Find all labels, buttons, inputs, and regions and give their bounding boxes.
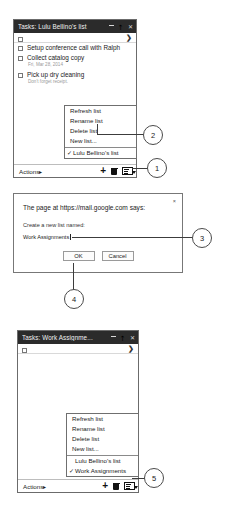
callout-4: 4	[64, 289, 84, 309]
task-title: Collect catalog copy	[27, 54, 84, 62]
task-row[interactable]: Collect catalog copy	[14, 52, 136, 62]
dialog-close-icon[interactable]: ×	[173, 198, 176, 204]
popout-icon[interactable]: ↗	[118, 333, 128, 343]
js-prompt-dialog: × The page at https://mail.google.com sa…	[13, 193, 183, 273]
callout-3: 3	[192, 228, 212, 248]
task-note: Don't forget receipt.	[14, 79, 136, 85]
popout-icon[interactable]: ↗	[116, 22, 126, 32]
tasks-body: ❯ Setup conference call with Ralph Colle…	[14, 33, 136, 165]
callout-number: 5	[152, 474, 156, 483]
panel-title: Tasks: Work Assignme...	[22, 334, 108, 341]
task-row[interactable]: Pick up dry cleaning	[14, 68, 136, 79]
callout-leader	[97, 134, 144, 135]
actions-caret-icon: ▸	[43, 483, 46, 490]
task-row[interactable]: ❯	[14, 33, 136, 42]
tasks-footer: Actions▸ +	[18, 479, 138, 492]
callout-1: 1	[147, 158, 167, 178]
task-checkbox[interactable]	[18, 73, 23, 78]
task-row[interactable]: Setup conference call with Ralph	[14, 43, 136, 53]
menu-item-list-lulu-bellinos-list[interactable]: ✓ Lulu Bellino's list	[65, 148, 136, 158]
menu-item-new-list[interactable]: New list...	[67, 444, 138, 454]
menu-item-rename-list[interactable]: Rename list	[65, 116, 136, 126]
minimize-icon[interactable]	[109, 25, 114, 26]
dialog-header: The page at https://mail.google.com says…	[14, 194, 182, 212]
delete-task-icon[interactable]	[113, 483, 119, 490]
menu-item-list-work-assignments[interactable]: ✓ Work Assignments	[67, 466, 138, 476]
tasks-body: ❯ Refresh list Rename list Delete list N…	[18, 344, 138, 480]
actions-label: Actions	[23, 483, 43, 490]
menu-item-delete-list[interactable]: Delete list	[67, 434, 138, 444]
task-checkbox[interactable]	[18, 46, 23, 51]
callout-2: 2	[143, 125, 163, 145]
menu-item-rename-list[interactable]: Rename list	[67, 424, 138, 434]
task-detail-arrow[interactable]: ❯	[126, 34, 132, 42]
close-icon[interactable]: ✕	[128, 24, 133, 30]
text-caret	[70, 234, 71, 240]
delete-task-icon[interactable]	[111, 168, 117, 175]
task-detail-arrow[interactable]: ❯	[128, 345, 134, 353]
task-checkbox[interactable]	[18, 56, 23, 61]
add-task-icon[interactable]: +	[100, 167, 106, 175]
footer-icons: +	[100, 167, 133, 175]
callout-number: 3	[200, 234, 204, 243]
minimize-icon[interactable]	[111, 336, 116, 337]
task-title: Pick up dry cleaning	[27, 71, 84, 79]
callout-number: 1	[155, 164, 159, 173]
list-context-menu: Refresh list Rename list Delete list New…	[66, 413, 139, 477]
callout-leader	[73, 263, 74, 291]
menu-item-new-list[interactable]: New list...	[65, 136, 136, 146]
list-context-menu: Refresh list Rename list Delete list New…	[64, 105, 137, 159]
callout-number: 2	[151, 131, 155, 140]
dialog-prompt-label: Create a new list named:	[14, 212, 182, 229]
cancel-button[interactable]: Cancel	[102, 251, 134, 261]
task-title: Setup conference call with Ralph	[27, 44, 120, 52]
menu-list-label: Lulu Bellino's list	[75, 457, 121, 465]
callout-number: 4	[72, 295, 76, 304]
tasks-footer: Actions▸ +	[14, 164, 136, 177]
menu-list-label: Lulu Bellino's list	[73, 149, 119, 157]
footer-icons: +	[102, 482, 135, 490]
titlebar-buttons: ↗ ✕	[108, 334, 135, 342]
menu-item-refresh-list[interactable]: Refresh list	[67, 414, 138, 424]
task-row[interactable]: ❯	[18, 344, 138, 353]
callout-5: 5	[144, 468, 164, 488]
task-checkbox[interactable]	[18, 37, 23, 42]
actions-caret-icon: ▸	[39, 168, 42, 175]
list-actions-icon[interactable]	[124, 482, 135, 490]
ok-button[interactable]: OK	[63, 251, 95, 261]
chevron-down-icon	[132, 171, 136, 174]
menu-item-list-lulu-bellinos-list[interactable]: Lulu Bellino's list	[67, 456, 138, 466]
actions-button[interactable]: Actions▸	[23, 483, 102, 490]
dialog-buttons: OK Cancel	[14, 251, 182, 261]
close-icon[interactable]: ✕	[130, 335, 135, 341]
tasks-panel-lulu: Tasks: Lulu Bellino's list ↗ ✕ ❯ Setup c…	[13, 19, 137, 178]
input-value: Work Assignments	[23, 234, 69, 240]
actions-label: Actions	[19, 168, 39, 175]
panel-title: Tasks: Lulu Bellino's list	[18, 23, 106, 30]
menu-list-label: Work Assignments	[75, 467, 126, 475]
tasks-titlebar: Tasks: Work Assignme... ↗ ✕	[18, 331, 138, 344]
tasks-panel-work-assignments: Tasks: Work Assignme... ↗ ✕ ❯ Refresh li…	[17, 330, 139, 493]
task-checkbox[interactable]	[22, 348, 27, 353]
chevron-down-icon	[134, 486, 138, 489]
actions-button[interactable]: Actions▸	[19, 168, 100, 175]
tasks-titlebar: Tasks: Lulu Bellino's list ↗ ✕	[14, 20, 136, 33]
divider	[18, 353, 138, 354]
callout-leader	[72, 237, 193, 238]
titlebar-buttons: ↗ ✕	[106, 23, 133, 31]
menu-item-refresh-list[interactable]: Refresh list	[65, 106, 136, 116]
add-task-icon[interactable]: +	[102, 482, 108, 490]
callout-leader	[97, 124, 98, 135]
